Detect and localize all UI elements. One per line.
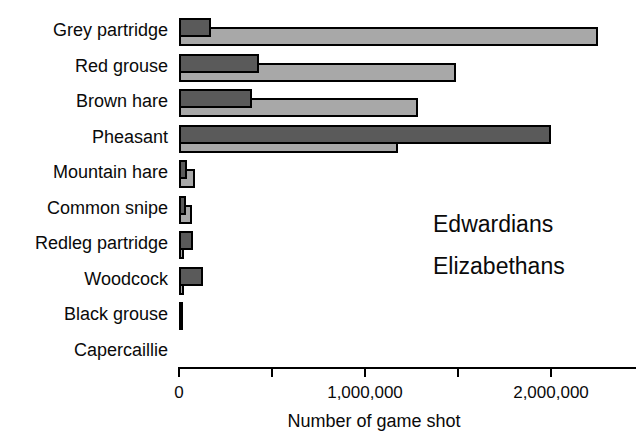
bar-elizabethans (179, 267, 203, 286)
bar-elizabethans (179, 125, 551, 144)
bar-elizabethans (179, 231, 193, 250)
legend-item-elizabethans: Elizabethans (433, 245, 565, 287)
category-label: Capercaillie (0, 340, 168, 360)
bar-edwardians (179, 27, 598, 46)
category-label: Red grouse (0, 56, 168, 76)
x-axis-tick (550, 367, 552, 377)
x-axis-title: Number of game shot (287, 411, 460, 432)
bar-elizabethans (179, 89, 252, 108)
x-axis-tick-label: 2,000,000 (513, 383, 589, 403)
category-label: Common snipe (0, 198, 168, 218)
x-axis-tick-label: 0 (174, 383, 183, 403)
category-label: Woodcock (0, 269, 168, 289)
x-axis-tick (271, 367, 273, 377)
game-bag-bar-chart: Grey partridgeRed grouseBrown harePheasa… (0, 0, 636, 445)
x-axis-tick-label: 1,000,000 (327, 383, 403, 403)
bar-elizabethans (179, 54, 259, 73)
x-axis-tick (178, 367, 180, 377)
category-label: Grey partridge (0, 20, 168, 40)
category-label: Brown hare (0, 91, 168, 111)
category-label: Mountain hare (0, 162, 168, 182)
category-label: Pheasant (0, 127, 168, 147)
bar-elizabethans (179, 160, 187, 179)
x-axis-tick (364, 367, 366, 377)
category-label: Black grouse (0, 304, 168, 324)
category-label: Redleg partridge (0, 233, 168, 253)
legend: Edwardians Elizabethans (433, 203, 565, 287)
x-axis-line (179, 367, 636, 369)
legend-item-edwardians: Edwardians (433, 203, 565, 245)
bar-elizabethans (179, 196, 186, 215)
bar-elizabethans (179, 302, 183, 321)
x-axis-tick (457, 367, 459, 377)
bar-elizabethans (179, 18, 211, 37)
